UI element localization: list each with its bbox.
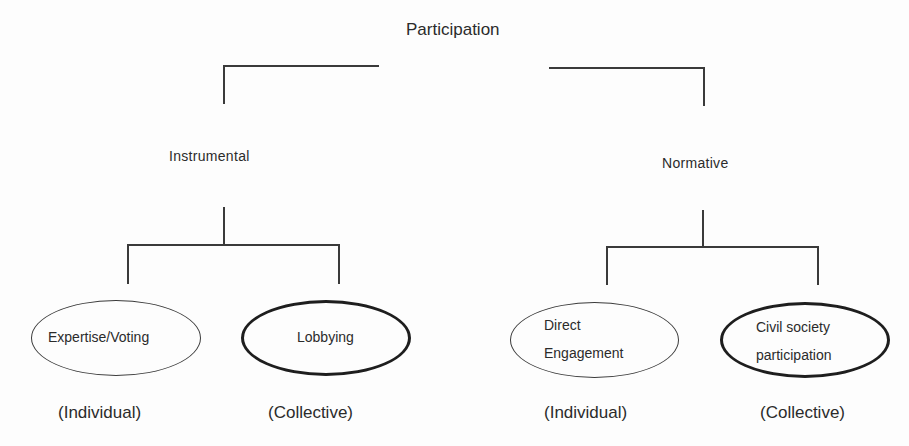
- branch-instrumental: Instrumental: [169, 148, 250, 164]
- connector-lines: [0, 0, 909, 446]
- connector-root-right: [549, 68, 704, 106]
- connector-root-left: [224, 66, 379, 104]
- node-direct-engagement: Direct Engagement: [510, 302, 679, 378]
- branch-normative: Normative: [662, 155, 729, 171]
- type-label-individual-2: (Individual): [544, 403, 627, 423]
- type-label-individual-1: (Individual): [58, 403, 141, 423]
- node-lobbying-label: Lobbying: [297, 329, 354, 345]
- connector-instrumental-split: [128, 245, 339, 284]
- node-civil-society-line2: participation: [756, 347, 832, 363]
- type-label-collective-2: (Collective): [760, 403, 845, 423]
- node-expertise-voting-label: Expertise/Voting: [48, 329, 149, 345]
- node-direct-engagement-line1: Direct: [544, 317, 581, 333]
- node-direct-engagement-line2: Engagement: [544, 345, 623, 361]
- node-lobbying: Lobbying: [241, 300, 411, 376]
- node-expertise-voting: Expertise/Voting: [31, 300, 201, 376]
- participation-diagram: Participation Instrumental Normative Exp…: [0, 0, 909, 446]
- root-node-participation: Participation: [406, 20, 500, 40]
- type-label-collective-1: (Collective): [268, 403, 353, 423]
- node-civil-society-participation: Civil society participation: [720, 302, 890, 378]
- connector-normative-split: [607, 247, 818, 285]
- node-civil-society-line1: Civil society: [756, 319, 830, 335]
